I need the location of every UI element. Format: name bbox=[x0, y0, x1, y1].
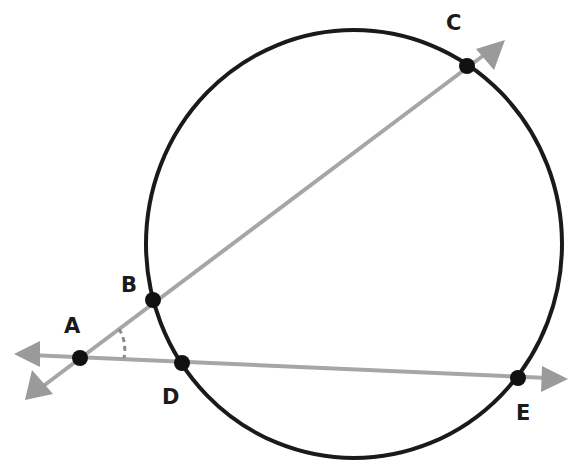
arrowhead-e-icon bbox=[541, 366, 568, 392]
point-d bbox=[174, 355, 190, 371]
point-a bbox=[72, 350, 88, 366]
label-b: B bbox=[121, 275, 137, 296]
secant-diagram bbox=[0, 0, 577, 465]
point-c bbox=[459, 58, 475, 74]
ray-ae-line bbox=[30, 355, 548, 378]
label-d: D bbox=[162, 387, 179, 408]
ray-ac-line bbox=[38, 52, 488, 390]
label-a: A bbox=[64, 316, 80, 337]
angle-arc-mark bbox=[119, 329, 125, 358]
label-e: E bbox=[516, 403, 530, 424]
arrowhead-lower-left-icon bbox=[25, 370, 53, 400]
circle bbox=[146, 30, 562, 458]
label-c: C bbox=[446, 13, 461, 34]
point-b bbox=[145, 292, 161, 308]
point-e bbox=[510, 370, 526, 386]
arrowhead-left-icon bbox=[14, 341, 40, 367]
arrowhead-c-icon bbox=[476, 40, 505, 70]
